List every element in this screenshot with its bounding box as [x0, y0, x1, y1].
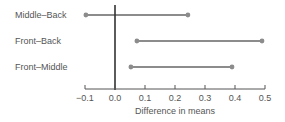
category-label: Front–Back: [15, 36, 62, 46]
tick-label: 0.0: [109, 93, 122, 103]
interval-row: [129, 65, 235, 70]
lower-bound-point: [129, 65, 134, 70]
tick-label: 0.1: [139, 93, 152, 103]
interval-bars: [84, 13, 265, 70]
interval-row: [135, 39, 265, 44]
x-axis-label: Difference in means: [135, 106, 215, 116]
category-labels: Middle–BackFront–BackFront–Middle: [15, 10, 68, 72]
tick-label: 0.3: [199, 93, 212, 103]
tick-label: −0.1: [76, 93, 94, 103]
tick-label: 0.5: [259, 93, 272, 103]
tick-label: 0.2: [169, 93, 182, 103]
upper-bound-point: [230, 65, 235, 70]
interval-row: [84, 13, 191, 18]
lower-bound-point: [84, 13, 89, 18]
confidence-interval-chart: Middle–BackFront–BackFront–Middle −0.10.…: [0, 0, 285, 122]
category-label: Middle–Back: [15, 10, 67, 20]
lower-bound-point: [135, 39, 140, 44]
category-label: Front–Middle: [15, 62, 68, 72]
upper-bound-point: [260, 39, 265, 44]
tick-label: 0.4: [229, 93, 242, 103]
upper-bound-point: [186, 13, 191, 18]
x-axis: −0.10.00.10.20.30.40.5: [76, 85, 271, 103]
